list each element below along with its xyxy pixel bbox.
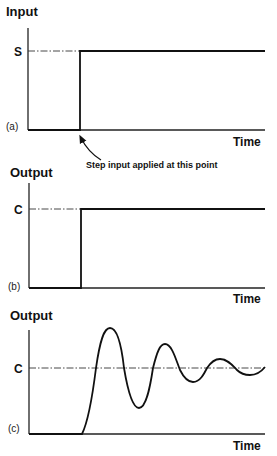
x-axis-label: Time [233, 135, 261, 149]
panel-b-title: Output [10, 165, 53, 180]
input-step-signal [28, 51, 265, 130]
panel-tag-c: (c) [8, 423, 20, 434]
arrow-icon [81, 138, 101, 160]
output-step-signal [29, 209, 265, 288]
panel-a-input: Input S (a) Time [6, 4, 265, 149]
panel-b-output: Output C (b) Time [8, 165, 265, 306]
x-axis-label: Time [233, 292, 261, 306]
level-label-c: C [14, 203, 23, 217]
annotation: Step input applied at this point [81, 138, 218, 170]
x-axis-label: Time [233, 439, 261, 453]
underdamped-response-curve [29, 328, 265, 434]
panel-c-output: Output C (c) Time [8, 308, 265, 453]
annotation-text: Step input applied at this point [86, 160, 218, 170]
level-label-s: S [14, 45, 22, 59]
panel-c-title: Output [10, 308, 53, 323]
panel-tag-a: (a) [6, 121, 18, 132]
panel-a-title: Input [6, 4, 38, 19]
level-label-c: C [14, 362, 23, 376]
step-response-diagram: Input S (a) Time Step input applied at t… [0, 0, 277, 456]
panel-tag-b: (b) [8, 281, 20, 292]
